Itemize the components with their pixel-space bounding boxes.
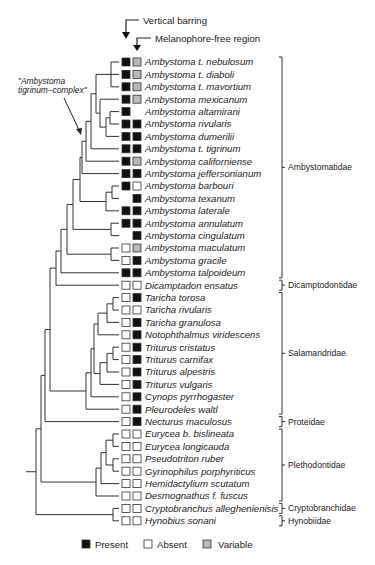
taxa-rows: Ambystoma t. nebulosumAmbystoma t. diabo… <box>122 56 279 526</box>
species-name: Ambystoma texanum <box>144 193 235 204</box>
vertical-barring-present-square <box>122 269 130 277</box>
family-label: Ambystomatidae <box>288 162 352 172</box>
melanophore-free-present-square <box>133 318 141 326</box>
taxon-row: Ambystoma cingulatum <box>133 230 245 241</box>
melanophore-free-absent-square <box>133 467 141 475</box>
arrow-icon <box>76 128 82 135</box>
taxon-row: Ambystoma dumerilii <box>122 131 235 142</box>
species-name: Triturus vulgaris <box>145 379 213 390</box>
melanophore-free-absent-square <box>133 430 141 438</box>
vertical-barring-absent-square <box>122 418 130 426</box>
taxon-row: Ambystoma rivularis <box>122 118 232 129</box>
taxon-row: Taricha rivularis <box>122 304 212 315</box>
melanophore-free-present-square <box>133 132 141 140</box>
species-name: Triturus carnifax <box>145 354 214 365</box>
taxon-row: Taricha torosa <box>122 292 205 303</box>
vertical-barring-absent-square <box>122 492 130 500</box>
vertical-barring-absent-square <box>122 380 130 388</box>
species-name: Ambystoma gracile <box>144 255 227 266</box>
taxon-row: Ambystoma laterale <box>122 205 230 216</box>
vertical-barring-present-square <box>122 170 130 178</box>
melanophore-free-present-square <box>133 269 141 277</box>
species-name: Ambystoma altamirani <box>144 106 241 117</box>
vertical-barring-present-square <box>122 207 130 215</box>
arrow-down-icon <box>122 32 130 39</box>
taxon-row: Hemidactylium scutatum <box>122 478 250 489</box>
species-name: Ambystoma barbouri <box>144 180 234 191</box>
species-name: Ambystoma t. nebulosum <box>144 56 253 67</box>
vertical-barring-present-square <box>122 182 130 190</box>
legend-variable-swatch <box>203 540 211 548</box>
vertical-barring-absent-square <box>122 356 130 364</box>
species-name: Desmognathus f. fuscus <box>145 490 248 501</box>
taxon-row: Ambystoma jeffersonianum <box>122 168 261 179</box>
species-name: Eurycea b. bislineata <box>145 428 234 439</box>
family-label: Cryptobranchidae <box>288 503 356 513</box>
vertical-barring-present-square <box>122 108 130 116</box>
vertical-barring-absent-square <box>122 393 130 401</box>
species-name: Ambystoma mexicanum <box>144 94 247 105</box>
legend-present-label: Present <box>95 539 128 550</box>
vertical-barring-absent-square <box>122 318 130 326</box>
taxon-row: Triturus alpestris <box>122 366 215 377</box>
melanophore-free-absent-square <box>133 306 141 314</box>
family-bracket: Hynobiidae <box>279 516 331 526</box>
taxon-row: Ambystoma altamirani <box>122 106 241 117</box>
vertical-barring-absent-square <box>122 430 130 438</box>
taxon-row: Hynobius sonani <box>122 515 217 526</box>
taxon-row: Ambystoma t. diaboli <box>122 69 235 80</box>
header-vertical-barring-label: Vertical barring <box>143 15 207 26</box>
clade-note-line-2: tigrinum–complex" <box>18 85 88 95</box>
melanophore-free-present-square <box>133 343 141 351</box>
species-name: Ambystoma maculatum <box>144 242 245 253</box>
taxon-row: Gyrinophilus porphyriticus <box>122 466 256 477</box>
melanophore-free-absent-square <box>133 517 141 525</box>
species-name: Taricha rivularis <box>145 304 212 315</box>
vertical-barring-absent-square <box>122 405 130 413</box>
vertical-barring-present-square <box>122 219 130 227</box>
melanophore-free-present-square <box>133 368 141 376</box>
species-name: Pleurodeles waltl <box>145 404 218 415</box>
species-name: Ambystoma annulatum <box>144 218 243 229</box>
melanophore-free-variable-square <box>133 70 141 78</box>
family-bracket: Ambystomatidae <box>279 57 352 278</box>
taxon-row: Desmognathus f. fuscus <box>122 490 248 501</box>
vertical-barring-absent-square <box>122 442 130 450</box>
melanophore-free-present-square <box>133 219 141 227</box>
clade-annotation: "Ambystoma tigrinum–complex" <box>18 76 88 135</box>
melanophore-free-present-square <box>133 232 141 240</box>
species-name: Ambystoma talpoideum <box>144 267 245 278</box>
taxon-row: Cynops pyrrhogaster <box>122 391 235 402</box>
vertical-barring-absent-square <box>122 256 130 264</box>
header-melanophore-free-label: Melanophore-free region <box>155 33 260 44</box>
melanophore-free-present-square <box>133 207 141 215</box>
species-name: Pseudotriton ruber <box>145 453 225 464</box>
melanophore-free-present-square <box>133 256 141 264</box>
taxon-row: Eurycea b. bislineata <box>122 428 234 439</box>
vertical-barring-present-square <box>122 70 130 78</box>
vertical-barring-absent-square <box>122 504 130 512</box>
family-bracket: Proteidae <box>279 417 325 427</box>
melanophore-free-present-square <box>133 120 141 128</box>
species-name: Ambystoma t. tigrinum <box>144 143 240 154</box>
species-name: Eurycea longicauda <box>145 441 229 452</box>
taxon-row: Ambystoma t. mavortium <box>122 81 251 92</box>
melanophore-free-variable-square <box>133 244 141 252</box>
vertical-barring-absent-square <box>122 368 130 376</box>
vertical-barring-absent-square <box>122 294 130 302</box>
melanophore-free-present-square <box>133 145 141 153</box>
melanophore-free-absent-square <box>133 182 141 190</box>
vertical-barring-absent-square <box>122 281 130 289</box>
melanophore-free-present-square <box>133 356 141 364</box>
family-label: Plethodontidae <box>288 460 346 470</box>
melanophore-free-present-square <box>133 194 141 202</box>
vertical-barring-present-square <box>122 132 130 140</box>
melanophore-free-present-square <box>133 418 141 426</box>
family-bracket: Plethodontidae <box>279 429 346 501</box>
vertical-barring-present-square <box>122 83 130 91</box>
species-name: Ambystoma californiense <box>144 156 252 167</box>
species-name: Ambystoma t. mavortium <box>144 81 251 92</box>
melanophore-free-variable-square <box>133 83 141 91</box>
phylogeny-figure: Vertical barring Melanophore-free region… <box>0 0 375 565</box>
taxon-row: Taricha granulosa <box>122 317 221 328</box>
